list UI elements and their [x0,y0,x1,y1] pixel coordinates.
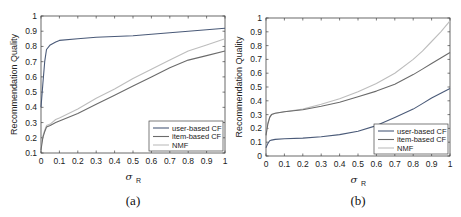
y-tick-label: 0.8 [25,41,37,51]
x-tick-label: 0.9 [201,156,213,166]
x-tick-label: 0.7 [389,159,401,169]
legend: user-based CFitem-based CFNMF [374,124,448,154]
x-tick-label: 0.2 [72,156,84,166]
legend-label: NMF [397,144,414,153]
x-tick-label: 0.1 [53,156,65,166]
x-tick-label: 1 [223,156,228,166]
y-tick-label: 0.2 [250,123,262,133]
y-tick-label: 1 [32,11,37,21]
y-tick-label: 0.8 [250,41,262,51]
panel-caption: (a) [126,193,140,208]
x-tick-label: 0.6 [370,159,382,169]
y-tick-label: 0.6 [250,68,262,78]
x-tick-label: 0.3 [90,156,102,166]
y-tick-label: 0.1 [25,148,37,158]
y-tick-label: 0.6 [25,72,37,82]
x-axis-label: σ [351,174,359,185]
x-axis-label-subscript: R [136,177,141,184]
x-tick-label: 0.5 [352,159,364,169]
series-line-nmf [266,21,450,133]
x-tick-label: 0.2 [297,159,309,169]
y-tick-label: 0.5 [250,82,262,92]
x-tick-label: 0.1 [278,159,290,169]
x-tick-label: 0.8 [182,156,194,166]
y-tick-label: 0.1 [250,137,262,147]
x-tick-label: 0.7 [164,156,176,166]
y-tick-label: 0.9 [25,26,37,36]
y-tick-label: 0.7 [25,57,37,67]
y-tick-label: 1 [257,13,262,23]
chart-panel-a: 00.10.20.30.40.50.60.70.80.910.10.20.30.… [9,11,228,208]
legend: user-based CFitem-based CFNMF [149,121,223,151]
y-tick-label: 0.2 [25,133,37,143]
x-tick-label: 0 [39,156,44,166]
series-line-item-based-cf [266,53,450,136]
legend-label: NMF [172,141,189,150]
y-axis-label: Recommendation Quality [234,36,244,138]
x-tick-label: 0 [264,159,269,169]
x-tick-label: 0.4 [109,156,121,166]
y-tick-label: 0.4 [250,96,262,106]
figure: 00.10.20.30.40.50.60.70.80.910.10.20.30.… [0,0,461,217]
y-tick-label: 0.7 [250,54,262,64]
x-tick-label: 0.8 [407,159,419,169]
series-line-user-based-cf [41,28,225,107]
x-tick-label: 0.3 [315,159,327,169]
x-tick-label: 0.6 [145,156,157,166]
chart-panel-b: 00.10.20.30.40.50.60.70.80.9100.10.20.30… [234,13,453,208]
panel-caption: (b) [350,193,365,208]
y-axis-label: Recommendation Quality [9,33,19,135]
y-tick-label: 0 [257,151,262,161]
x-axis-label-subscript: R [361,180,366,187]
y-tick-label: 0.4 [25,102,37,112]
y-tick-label: 0.9 [250,27,262,37]
y-tick-label: 0.3 [25,118,37,128]
y-tick-label: 0.5 [25,87,37,97]
x-tick-label: 1 [448,159,453,169]
x-axis-label: σ [126,171,134,182]
x-tick-label: 0.9 [426,159,438,169]
x-tick-label: 0.4 [334,159,346,169]
y-tick-label: 0.3 [250,110,262,120]
x-tick-label: 0.5 [127,156,139,166]
